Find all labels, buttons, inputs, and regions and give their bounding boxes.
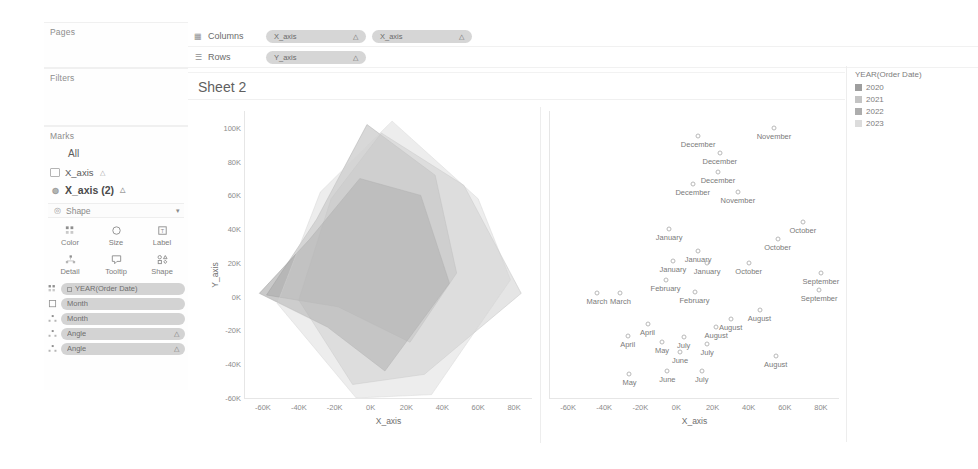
scatter-mark[interactable] bbox=[818, 271, 823, 276]
scatter-mark[interactable] bbox=[714, 325, 719, 330]
rows-icon: ☰ bbox=[192, 53, 204, 62]
legend-item[interactable]: 2020 bbox=[855, 83, 978, 92]
marks-pill-angle-2[interactable]: Angle △ bbox=[61, 343, 185, 355]
color-button[interactable]: Color bbox=[47, 221, 93, 250]
scatter-mark[interactable] bbox=[773, 353, 778, 358]
chart-panes: Y_axis X_axis 100K80K60K40K20K0K-20K-40K… bbox=[188, 107, 845, 443]
shape-button-label: Shape bbox=[151, 267, 173, 276]
x-axis-title: X_axis bbox=[682, 416, 708, 426]
size-button[interactable]: Size bbox=[93, 221, 139, 250]
scatter-mark[interactable] bbox=[705, 341, 710, 346]
legend-item-label: 2021 bbox=[866, 95, 884, 104]
scatter-mark[interactable] bbox=[690, 181, 695, 186]
filters-card[interactable]: Filters bbox=[44, 68, 188, 126]
scatter-mark[interactable] bbox=[659, 340, 664, 345]
scatter-mark[interactable] bbox=[800, 220, 805, 225]
marks-pill-label: Month bbox=[67, 298, 88, 310]
y-axis-tick: 0K bbox=[232, 292, 241, 301]
y-axis-tick: 40K bbox=[228, 225, 241, 234]
mark-type-selector[interactable]: ◎ Shape ▾ bbox=[48, 203, 184, 218]
scatter-mark-label: October bbox=[735, 266, 762, 275]
label-button[interactable]: T Label bbox=[139, 221, 185, 250]
columns-shelf[interactable]: ▦ Columns X_axis △ X_axis △ bbox=[188, 26, 978, 47]
marks-pill-row[interactable]: Month bbox=[47, 298, 185, 310]
tooltip-button[interactable]: Tooltip bbox=[93, 250, 139, 279]
columns-shelf-label: Columns bbox=[204, 31, 266, 41]
scatter-mark[interactable] bbox=[817, 287, 822, 292]
pages-card[interactable]: Pages bbox=[44, 22, 188, 68]
detail-icon bbox=[47, 314, 58, 324]
marks-pill-angle-1[interactable]: Angle △ bbox=[61, 328, 185, 340]
marks-layer-x-axis[interactable]: X_axis △ bbox=[44, 164, 188, 181]
marks-layer-x-axis-2[interactable]: ◍ X_axis (2) △ bbox=[44, 181, 188, 199]
marks-pill-row[interactable]: YEAR(Order Date) bbox=[47, 283, 185, 295]
x-axis-tick: 40K bbox=[436, 403, 449, 412]
legend-item[interactable]: 2022 bbox=[855, 107, 978, 116]
y-axis-title: Y_axis bbox=[210, 262, 220, 288]
svg-text:T: T bbox=[160, 228, 164, 234]
marks-pill-label: Angle bbox=[67, 343, 86, 355]
scatter-mark[interactable] bbox=[757, 308, 762, 313]
viz-area: Sheet 2 Y_axis X_axis 100K80K60K40K20K0K… bbox=[188, 72, 845, 442]
scatter-mark[interactable] bbox=[681, 335, 686, 340]
month-scatter-plot[interactable]: X_axis -60K-40K-20K0K20K40K60K80KNovembe… bbox=[549, 111, 839, 399]
scatter-mark[interactable] bbox=[696, 249, 701, 254]
scatter-mark[interactable] bbox=[627, 372, 632, 377]
scatter-mark[interactable] bbox=[645, 321, 650, 326]
scatter-mark[interactable] bbox=[678, 350, 683, 355]
scatter-mark[interactable] bbox=[775, 237, 780, 242]
x-axis-tick: 80K bbox=[507, 403, 520, 412]
month-scatter-pane: X_axis -60K-40K-20K0K20K40K60K80KNovembe… bbox=[540, 107, 845, 443]
scatter-mark[interactable] bbox=[715, 169, 720, 174]
columns-pill-x-axis-2[interactable]: X_axis △ bbox=[372, 30, 472, 43]
pill-label: Y_axis bbox=[274, 51, 297, 64]
marks-pill-year-order-date[interactable]: YEAR(Order Date) bbox=[61, 283, 185, 295]
rows-pill-y-axis[interactable]: Y_axis △ bbox=[266, 51, 366, 64]
detail-icon bbox=[47, 329, 58, 339]
scatter-mark[interactable] bbox=[663, 277, 668, 282]
left-sidebar: Pages Filters Marks All X_axis △ ◍ X_axi… bbox=[44, 22, 188, 390]
radar-polygon-plot[interactable]: X_axis 100K80K60K40K20K0K-20K-40K-60K-60… bbox=[244, 111, 532, 399]
rows-shelf[interactable]: ☰ Rows Y_axis △ bbox=[188, 47, 978, 68]
marks-card[interactable]: Marks All X_axis △ ◍ X_axis (2) △ ◎ Shap… bbox=[44, 126, 188, 390]
chevron-down-icon: ▾ bbox=[176, 207, 180, 215]
shape-button[interactable]: Shape bbox=[139, 250, 185, 279]
size-icon bbox=[110, 225, 123, 237]
marks-pill-row[interactable]: Angle △ bbox=[47, 328, 185, 340]
label-button-label: Label bbox=[153, 238, 171, 247]
marks-pill-row[interactable]: Angle △ bbox=[47, 343, 185, 355]
scatter-mark[interactable] bbox=[692, 289, 697, 294]
detail-button[interactable]: Detail bbox=[47, 250, 93, 279]
legend-item[interactable]: 2023 bbox=[855, 119, 978, 128]
scatter-mark-label: December bbox=[681, 140, 716, 149]
marks-pill-month-detail[interactable]: Month bbox=[61, 313, 185, 325]
scatter-mark[interactable] bbox=[618, 291, 623, 296]
polygon-layer bbox=[245, 111, 532, 398]
scatter-mark[interactable] bbox=[705, 260, 710, 265]
marks-pill-row[interactable]: Month bbox=[47, 313, 185, 325]
scatter-mark[interactable] bbox=[771, 125, 776, 130]
columns-icon: ▦ bbox=[192, 32, 204, 41]
delta-icon: △ bbox=[174, 343, 179, 355]
marks-pill-month-label[interactable]: Month bbox=[61, 298, 185, 310]
scatter-mark[interactable] bbox=[594, 291, 599, 296]
scatter-mark[interactable] bbox=[625, 333, 630, 338]
scatter-mark[interactable] bbox=[735, 190, 740, 195]
scatter-mark[interactable] bbox=[728, 316, 733, 321]
legend-items: 2020202120222023 bbox=[855, 83, 978, 128]
scatter-mark-label: October bbox=[790, 226, 817, 235]
legend-swatch-icon bbox=[855, 84, 862, 91]
y-axis-tick: -20K bbox=[225, 326, 241, 335]
scatter-mark[interactable] bbox=[746, 260, 751, 265]
scatter-mark[interactable] bbox=[699, 368, 704, 373]
x-axis-tick: 60K bbox=[472, 403, 485, 412]
marks-all-row[interactable]: All bbox=[44, 143, 188, 164]
columns-pill-x-axis-1[interactable]: X_axis △ bbox=[266, 30, 366, 43]
legend-title: YEAR(Order Date) bbox=[855, 70, 978, 79]
scatter-mark[interactable] bbox=[670, 259, 675, 264]
legend-item[interactable]: 2021 bbox=[855, 95, 978, 104]
scatter-mark[interactable] bbox=[665, 368, 670, 373]
scatter-mark[interactable] bbox=[717, 151, 722, 156]
scatter-mark[interactable] bbox=[696, 134, 701, 139]
scatter-mark[interactable] bbox=[667, 227, 672, 232]
